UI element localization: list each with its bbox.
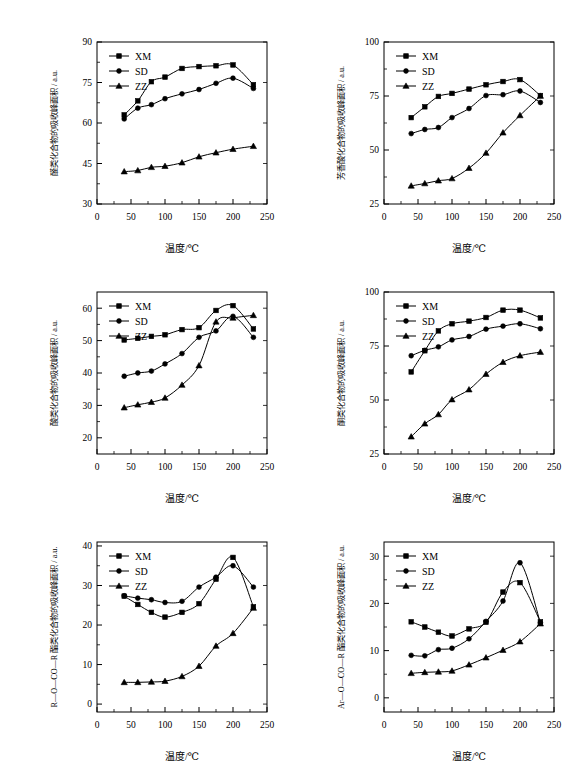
y-tick-label: 75 xyxy=(83,78,93,88)
data-point-SD xyxy=(163,362,168,367)
legend-label-SD: SD xyxy=(135,316,148,327)
data-point-SD xyxy=(422,348,427,353)
data-point-XM xyxy=(214,308,219,313)
y-tick-label: 20 xyxy=(370,599,380,609)
legend-label-ZZ: ZZ xyxy=(422,581,434,592)
legend: XMSDZZ xyxy=(396,51,438,92)
data-point-SD xyxy=(135,596,140,601)
data-point-SD xyxy=(180,91,185,96)
y-tick-label: 90 xyxy=(83,37,93,47)
legend-label-SD: SD xyxy=(135,566,148,577)
data-point-XM xyxy=(436,630,441,635)
data-point-XM xyxy=(518,77,523,82)
data-point-XM xyxy=(180,327,185,332)
data-point-ZZ xyxy=(196,362,202,367)
data-point-SD xyxy=(135,371,140,376)
legend-label-ZZ: ZZ xyxy=(135,581,147,592)
data-point-SD xyxy=(231,563,236,568)
data-point-XM xyxy=(163,75,168,80)
x-axis-label: 温度/℃ xyxy=(165,750,199,762)
data-point-ZZ xyxy=(422,421,428,426)
data-point-ZZ xyxy=(162,395,168,400)
data-point-SD xyxy=(422,653,427,658)
x-tick-label: 100 xyxy=(158,212,173,222)
x-tick-label: 250 xyxy=(260,720,275,730)
x-tick-label: 150 xyxy=(192,462,207,472)
chart-panel-aromatic-acid: 050100150200250255075100温度/℃芳香酸化合物的吸收峰面积… xyxy=(287,20,574,270)
legend-label-XM: XM xyxy=(422,551,438,562)
data-point-SD xyxy=(180,351,185,356)
y-tick-label: 45 xyxy=(83,159,93,169)
data-point-SD xyxy=(251,585,256,590)
data-point-XM xyxy=(467,627,472,632)
x-tick-label: 250 xyxy=(547,720,562,730)
data-point-SD xyxy=(484,619,489,624)
data-point-SD xyxy=(409,131,414,136)
data-point-XM xyxy=(409,370,414,375)
legend-marker-XM xyxy=(117,304,122,309)
x-tick-label: 100 xyxy=(445,720,460,730)
series-ZZ xyxy=(408,349,543,439)
data-point-XM xyxy=(450,91,455,96)
y-tick-label: 0 xyxy=(87,699,92,709)
y-tick-label: 30 xyxy=(83,581,93,591)
legend-marker-SD xyxy=(117,319,122,324)
series-line-ZZ xyxy=(411,96,540,186)
data-point-SD xyxy=(122,374,127,379)
data-point-XM xyxy=(163,615,168,620)
y-tick-label: 100 xyxy=(365,287,380,297)
data-point-SD xyxy=(149,102,154,107)
data-point-XM xyxy=(501,308,506,313)
data-point-SD xyxy=(409,353,414,358)
y-axis-label: Ar—O—CO—R 酯类化合物的吸收峰面积 / a.u. xyxy=(336,545,346,709)
x-tick-label: 250 xyxy=(260,462,275,472)
data-point-SD xyxy=(450,115,455,120)
data-point-SD xyxy=(450,338,455,343)
data-point-XM xyxy=(251,327,256,332)
legend-label-ZZ: ZZ xyxy=(422,81,434,92)
y-tick-label: 40 xyxy=(83,368,93,378)
legend: XMSDZZ xyxy=(396,301,438,342)
chart-panel-ester-ror: 050100150200250010203040温度/℃R—O—CO—R 酯类化… xyxy=(0,520,287,778)
data-point-XM xyxy=(467,319,472,324)
legend-label-SD: SD xyxy=(422,66,435,77)
y-tick-label: 50 xyxy=(370,145,380,155)
data-point-SD xyxy=(484,327,489,332)
x-tick-label: 50 xyxy=(126,212,136,222)
data-point-ZZ xyxy=(517,639,523,644)
y-tick-label: 10 xyxy=(370,646,380,656)
data-point-SD xyxy=(436,647,441,652)
legend-marker-SD xyxy=(117,69,122,74)
data-point-XM xyxy=(450,634,455,639)
x-tick-label: 150 xyxy=(479,212,494,222)
data-point-SD xyxy=(149,597,154,602)
data-point-ZZ xyxy=(500,359,506,364)
x-tick-label: 200 xyxy=(226,212,241,222)
data-point-XM xyxy=(136,602,141,607)
x-tick-label: 200 xyxy=(226,462,241,472)
x-tick-label: 200 xyxy=(513,462,528,472)
data-point-XM xyxy=(518,580,523,585)
x-tick-label: 150 xyxy=(479,720,494,730)
legend-label-XM: XM xyxy=(422,51,438,62)
y-tick-label: 75 xyxy=(370,341,380,351)
y-tick-label: 30 xyxy=(370,552,380,562)
chart-svg: 050100150200250255075100温度/℃酮类化合物的吸收峰面积 … xyxy=(287,270,574,520)
y-tick-label: 25 xyxy=(370,449,380,459)
data-point-SD xyxy=(422,127,427,132)
data-point-SD xyxy=(538,326,543,331)
data-point-SD xyxy=(501,324,506,329)
x-tick-label: 100 xyxy=(158,720,173,730)
data-point-SD xyxy=(135,106,140,111)
data-point-XM xyxy=(467,87,472,92)
legend-marker-XM xyxy=(117,554,122,559)
y-tick-label: 50 xyxy=(370,395,380,405)
data-point-XM xyxy=(436,329,441,334)
series-line-ZZ xyxy=(411,352,540,437)
x-tick-label: 0 xyxy=(95,212,100,222)
data-point-SD xyxy=(467,106,472,111)
series-ZZ xyxy=(121,605,256,685)
data-point-XM xyxy=(450,321,455,326)
data-point-XM xyxy=(149,610,154,615)
data-point-XM xyxy=(180,610,185,615)
